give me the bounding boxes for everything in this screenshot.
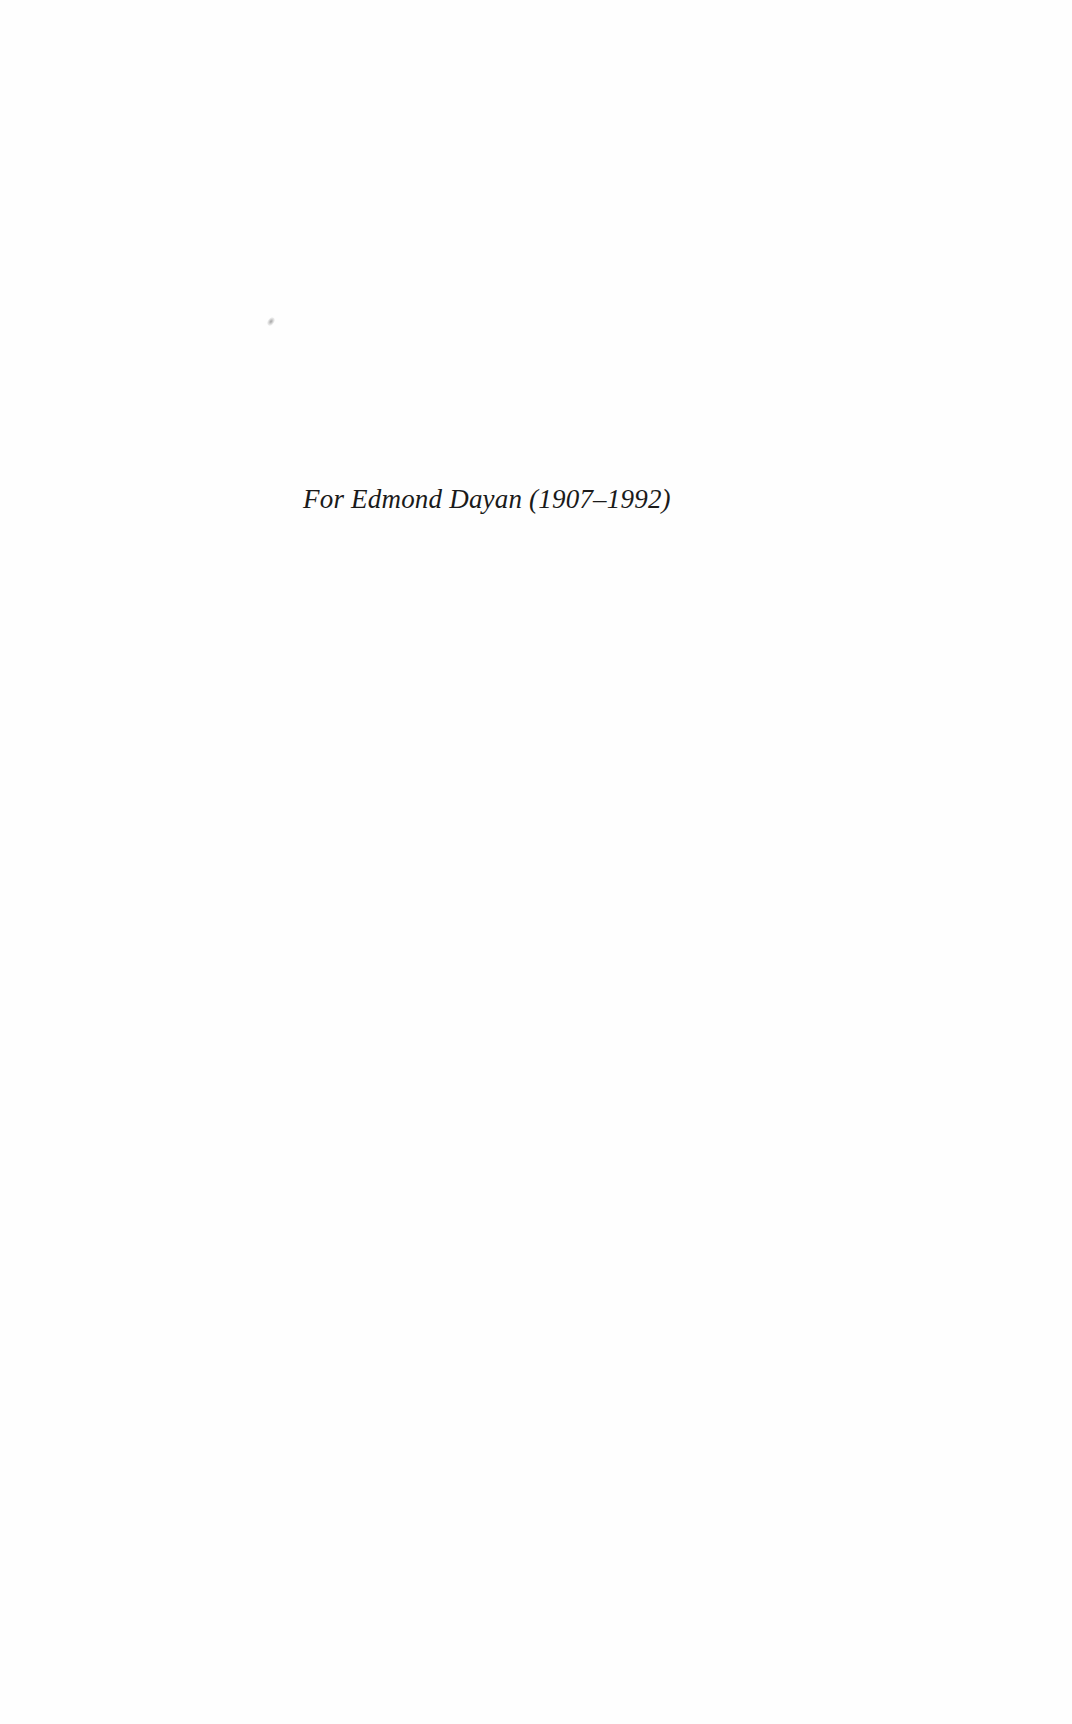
scan-smudge-mark bbox=[266, 316, 276, 327]
dedication-text: For Edmond Dayan (1907–1992) bbox=[303, 481, 671, 517]
document-page: For Edmond Dayan (1907–1992) bbox=[0, 0, 1072, 1724]
